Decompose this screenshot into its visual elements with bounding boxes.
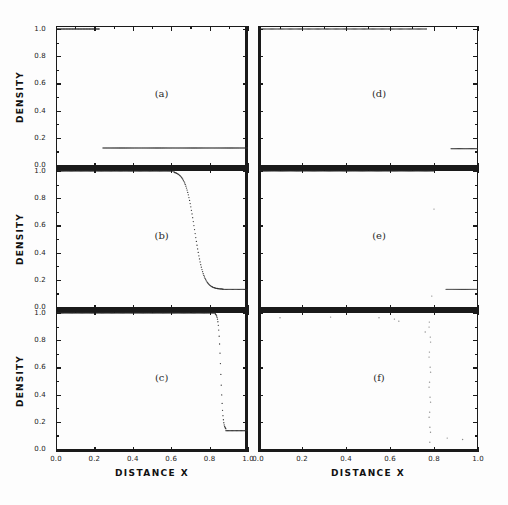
- ytick-left-a: [56, 111, 61, 112]
- ytick-right-f: [473, 313, 478, 314]
- panel-c: (c): [56, 310, 248, 452]
- xtick-label-c-3: 0.6: [165, 455, 177, 463]
- xtick-bottom-c: [210, 447, 211, 452]
- xtick-top-c: [75, 310, 76, 313]
- ytick-label-b-2: 0.4: [34, 249, 46, 257]
- ytick-label-b-1: 0.2: [34, 276, 46, 284]
- data-points-c: [56, 310, 248, 452]
- ytick-right-c: [245, 435, 248, 436]
- ytick-right-a: [245, 97, 248, 98]
- xtick-top-e: [280, 168, 281, 171]
- ytick-label-b-5: 1.0: [34, 167, 46, 175]
- xtick-top-d: [302, 26, 303, 31]
- ytick-left-b: [56, 307, 61, 308]
- ytick-left-b: [56, 253, 61, 254]
- panel-label-f: (f): [373, 371, 385, 382]
- ytick-right-a: [245, 151, 248, 152]
- ytick-right-e: [475, 266, 478, 267]
- xtick-top-f: [368, 310, 369, 313]
- ytick-left-d: [258, 29, 263, 30]
- xtick-top-b: [229, 168, 230, 171]
- xtick-label-f-3: 0.6: [384, 455, 396, 463]
- ytick-left-d: [258, 56, 263, 57]
- ytick-right-f: [473, 395, 478, 396]
- panel-label-d: (d): [372, 87, 386, 98]
- ytick-left-b: [56, 280, 61, 281]
- xtick-label-f-1: 0.2: [296, 455, 308, 463]
- data-points-a: [56, 26, 248, 168]
- xtick-bottom-f: [302, 447, 303, 452]
- ytick-right-c: [243, 422, 248, 423]
- xtick-label-c-4: 0.8: [204, 455, 216, 463]
- ytick-right-e: [473, 198, 478, 199]
- xtick-top-e: [302, 168, 303, 173]
- ytick-right-a: [243, 83, 248, 84]
- xtick-label-c-2: 0.4: [127, 455, 139, 463]
- ytick-left-a: [56, 97, 59, 98]
- panel-label-e: (e): [372, 229, 386, 240]
- ytick-left-c: [56, 327, 59, 328]
- ytick-right-b: [245, 266, 248, 267]
- ytick-left-f: [258, 408, 261, 409]
- ytick-left-b: [56, 266, 59, 267]
- ytick-label-b-3: 0.6: [34, 221, 46, 229]
- xtick-label-f-0: 0.0: [252, 455, 264, 463]
- xtick-top-a: [171, 26, 172, 31]
- ytick-left-d: [258, 97, 261, 98]
- xtick-bottom-f: [280, 449, 281, 452]
- xtick-top-e: [346, 168, 347, 173]
- ytick-right-d: [475, 124, 478, 125]
- ytick-left-e: [258, 307, 263, 308]
- ytick-right-e: [475, 185, 478, 186]
- xtick-top-b: [171, 168, 172, 173]
- ytick-left-b: [56, 225, 61, 226]
- xtick-bottom-c: [248, 447, 249, 452]
- ytick-right-a: [243, 56, 248, 57]
- ytick-label-c-2: 0.4: [34, 391, 46, 399]
- ytick-right-c: [243, 395, 248, 396]
- xtick-top-f: [412, 310, 413, 313]
- ytick-right-f: [475, 381, 478, 382]
- ytick-right-e: [475, 293, 478, 294]
- xtick-top-f: [390, 310, 391, 315]
- xtick-top-d: [412, 26, 413, 29]
- ytick-left-a: [56, 151, 59, 152]
- xtick-top-f: [478, 310, 479, 315]
- ytick-left-f: [258, 381, 261, 382]
- xtick-top-c: [190, 310, 191, 313]
- panel-b: (b): [56, 168, 248, 310]
- ytick-left-c: [56, 449, 61, 450]
- plot-area-c: [56, 310, 248, 452]
- ytick-right-c: [243, 340, 248, 341]
- panel-f: (f): [258, 310, 478, 452]
- ytick-right-b: [243, 171, 248, 172]
- xtick-label-f-2: 0.4: [340, 455, 352, 463]
- y-axis-title-b: DENSITY: [15, 213, 25, 265]
- xtick-top-d: [456, 26, 457, 29]
- xtick-top-e: [412, 168, 413, 171]
- xtick-top-f: [324, 310, 325, 313]
- ytick-right-a: [243, 111, 248, 112]
- xtick-bottom-c: [133, 447, 134, 452]
- density-distance-figure: (a)0.00.20.40.60.81.0DENSITY(b)0.00.20.4…: [0, 0, 508, 505]
- ytick-left-f: [258, 367, 263, 368]
- xtick-label-c-1: 0.2: [89, 455, 101, 463]
- xtick-top-c: [114, 310, 115, 313]
- ytick-label-c-0: 0.0: [34, 445, 46, 453]
- ytick-left-c: [56, 435, 59, 436]
- ytick-right-f: [475, 408, 478, 409]
- ytick-left-b: [56, 198, 61, 199]
- data-points-f: [258, 310, 478, 452]
- ytick-right-e: [475, 212, 478, 213]
- ytick-right-a: [243, 138, 248, 139]
- ytick-label-a-2: 0.4: [34, 107, 46, 115]
- xtick-bottom-f: [346, 447, 347, 452]
- ytick-left-f: [258, 313, 263, 314]
- xtick-top-a: [229, 26, 230, 29]
- ytick-left-c: [56, 354, 59, 355]
- ytick-right-b: [243, 307, 248, 308]
- ytick-right-d: [473, 165, 478, 166]
- ytick-left-f: [258, 327, 261, 328]
- xtick-top-e: [456, 168, 457, 171]
- xtick-top-d: [324, 26, 325, 29]
